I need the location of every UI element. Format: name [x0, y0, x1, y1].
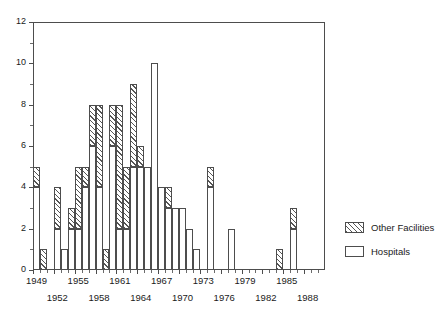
x-tick-label: 1988	[297, 293, 318, 303]
bar-column	[158, 22, 165, 270]
x-tick-minor	[109, 270, 110, 273]
legend-item-other-facilities: Other Facilities	[345, 222, 445, 233]
bar-segment-other-facilities	[68, 208, 75, 229]
bar-segment-hospitals	[123, 229, 130, 270]
x-tick-minor	[68, 270, 69, 273]
y-tick-label: 4	[4, 182, 26, 191]
x-tick-major	[304, 270, 305, 274]
bar-segment-other-facilities	[75, 167, 82, 229]
bar-column	[207, 22, 214, 270]
bar-column	[61, 22, 68, 270]
bar-column	[151, 22, 158, 270]
x-tick-label: 1952	[47, 293, 68, 303]
bar-segment-hospitals	[228, 229, 235, 270]
bar-segment-hospitals	[207, 187, 214, 270]
x-tick-label: 1955	[68, 276, 89, 286]
bar-column	[40, 22, 47, 270]
bar-segment-other-facilities	[54, 187, 61, 228]
x-tick-label: 1949	[26, 276, 47, 286]
bar-segment-other-facilities	[40, 249, 47, 270]
bar-segment-hospitals	[186, 229, 193, 270]
x-tick-minor	[235, 270, 236, 273]
bar-segment-hospitals	[172, 208, 179, 270]
y-tick-label: 8	[4, 100, 26, 109]
x-tick-major	[242, 270, 243, 274]
bar-segment-hospitals	[130, 167, 137, 270]
x-tick-minor	[311, 270, 312, 273]
x-tick-minor	[165, 270, 166, 273]
x-tick-minor	[82, 270, 83, 273]
bar-segment-hospitals	[151, 63, 158, 270]
bar-column	[130, 22, 137, 270]
bar-column	[179, 22, 186, 270]
bar-segment-other-facilities	[103, 249, 110, 270]
legend-swatch-hospitals	[345, 246, 364, 257]
bar-column	[290, 22, 297, 270]
bar-segment-other-facilities	[82, 167, 89, 188]
bar-segment-other-facilities	[165, 187, 172, 208]
x-tick-label: 1958	[88, 293, 109, 303]
bar-segment-hospitals	[179, 208, 186, 270]
bar-segment-hospitals	[290, 229, 297, 270]
x-tick-label: 1964	[130, 293, 151, 303]
bar-segment-other-facilities	[116, 105, 123, 229]
bar-segment-other-facilities	[89, 105, 96, 146]
bar-column	[276, 22, 283, 270]
x-tick-label: 1970	[172, 293, 193, 303]
bar-segment-hospitals	[89, 146, 96, 270]
x-tick-major	[200, 270, 201, 274]
x-tick-minor	[144, 270, 145, 273]
legend-swatch-other-facilities	[345, 222, 364, 233]
bar-column	[193, 22, 200, 270]
y-tick-label: 2	[4, 224, 26, 233]
bar-segment-hospitals	[165, 208, 172, 270]
bar-column	[144, 22, 151, 270]
bar-segment-other-facilities	[290, 208, 297, 229]
bar-column	[75, 22, 82, 270]
x-tick-minor	[290, 270, 291, 273]
x-tick-minor	[130, 270, 131, 273]
x-tick-minor	[297, 270, 298, 273]
x-tick-major	[116, 270, 117, 274]
x-tick-major	[54, 270, 55, 274]
bar-column	[89, 22, 96, 270]
bar-column	[165, 22, 172, 270]
bar-column	[137, 22, 144, 270]
y-tick-label: 10	[4, 58, 26, 67]
y-tick-label: 0	[4, 265, 26, 274]
y-tick-label: 12	[4, 17, 26, 26]
x-tick-minor	[193, 270, 194, 273]
x-tick-minor	[255, 270, 256, 273]
x-tick-minor	[207, 270, 208, 273]
x-tick-major	[137, 270, 138, 274]
x-tick-label: 1967	[151, 276, 172, 286]
bar-segment-hospitals	[82, 187, 89, 270]
bar-column	[54, 22, 61, 270]
x-tick-minor	[269, 270, 270, 273]
y-tick-label: 6	[4, 141, 26, 150]
x-tick-minor	[249, 270, 250, 273]
bar-segment-hospitals	[158, 187, 165, 270]
bar-segment-hospitals	[193, 249, 200, 270]
plot-area	[33, 22, 325, 270]
bar-column	[68, 22, 75, 270]
x-tick-minor	[228, 270, 229, 273]
bar-segment-hospitals	[54, 229, 61, 270]
x-tick-major	[33, 270, 34, 274]
bar-column	[109, 22, 116, 270]
x-tick-major	[283, 270, 284, 274]
bar-segment-hospitals	[33, 187, 40, 270]
x-tick-minor	[61, 270, 62, 273]
x-tick-minor	[318, 270, 319, 273]
x-tick-major	[221, 270, 222, 274]
x-tick-label: 1979	[234, 276, 255, 286]
bar-segment-other-facilities	[276, 249, 283, 270]
bar-segment-other-facilities	[130, 84, 137, 167]
bar-segment-hospitals	[96, 187, 103, 270]
bar-segment-other-facilities	[109, 105, 116, 146]
x-tick-minor	[214, 270, 215, 273]
bar-column	[116, 22, 123, 270]
bar-segment-hospitals	[137, 167, 144, 270]
x-tick-minor	[103, 270, 104, 273]
bar-column	[103, 22, 110, 270]
